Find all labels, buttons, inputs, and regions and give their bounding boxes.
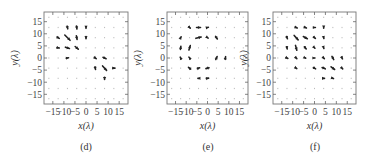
- y-tick-label: −10: [256, 78, 271, 88]
- y-tick-label: 15: [262, 17, 272, 27]
- y-tick-label: 0: [266, 53, 271, 63]
- x-tick-label: 10: [332, 107, 342, 117]
- y-tick-label: 10: [262, 29, 272, 39]
- x-tick-label: 5: [323, 107, 328, 117]
- panel-f: −15−10−5051015−15−10−5051015x(λ)y(λ) (f): [0, 0, 382, 161]
- x-tick-label: 15: [343, 107, 353, 117]
- x-axis-label: x(λ): [306, 120, 323, 132]
- x-tick-label: −5: [299, 107, 309, 117]
- y-tick-label: 5: [266, 41, 271, 51]
- caption-f: (f): [285, 141, 345, 152]
- y-tick-label: −5: [261, 65, 271, 75]
- x-tick-label: 0: [312, 107, 317, 117]
- y-tick-label: −15: [256, 90, 271, 100]
- y-axis-label: y(λ): [238, 50, 250, 67]
- plot-f: −15−10−5051015−15−10−5051015x(λ)y(λ): [0, 0, 382, 161]
